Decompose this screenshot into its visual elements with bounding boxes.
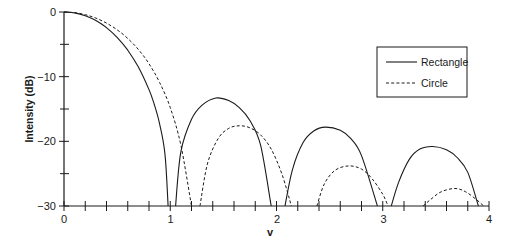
x-ticks [64, 201, 489, 211]
legend-box [377, 47, 467, 97]
plot-area [64, 12, 484, 206]
legend: Rectangle Circle [377, 47, 468, 97]
y-tick-label-minus30: −30 [37, 200, 56, 212]
legend-circle-label: Circle [421, 77, 448, 89]
y-tick-label-minus10: −10 [37, 71, 56, 83]
series-rectangle-line [64, 12, 478, 206]
y-tick-label-minus20: −20 [37, 135, 56, 147]
chart: 0 −10 −20 −30 0 1 2 3 4 v Intensity (dB)… [0, 0, 513, 245]
x-tick-label-1: 1 [167, 213, 173, 225]
series-circle-line [64, 12, 484, 206]
x-tick-label-2: 2 [274, 213, 280, 225]
x-tick-label-0: 0 [61, 213, 67, 225]
x-axis-label: v [267, 226, 274, 238]
legend-rectangle-label: Rectangle [421, 56, 468, 68]
y-tick-label-0: 0 [50, 6, 56, 18]
x-tick-label-3: 3 [380, 213, 386, 225]
y-axis-label: Intensity (dB) [23, 75, 35, 142]
x-tick-label-4: 4 [486, 213, 492, 225]
